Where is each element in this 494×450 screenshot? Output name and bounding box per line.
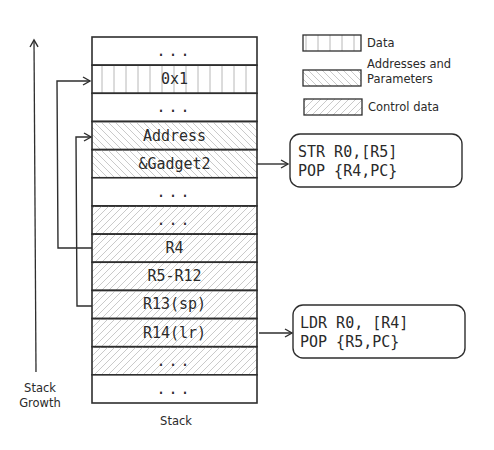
stack-diagram: Stack Growth ...0x1...Address&Gadget2...… [0, 0, 494, 450]
pointer-r13sp-to-address [76, 137, 92, 306]
gadget-str-line2: POP {R4,PC} [298, 162, 397, 180]
gadget-box-ldr: LDR R0, [R4] POP {R5,PC} [293, 305, 465, 358]
stack-row-label: Address [143, 127, 206, 145]
legend-label-addresses-line2: Parameters [367, 72, 433, 86]
stack-row-label: R5-R12 [147, 267, 201, 285]
gadget-ldr-line2: POP {R5,PC} [300, 333, 399, 351]
legend-swatch-data [303, 35, 361, 51]
stack-growth-label-line2: Growth [19, 396, 61, 410]
legend-swatch-control [304, 99, 362, 115]
stack-row-label: ... [156, 183, 192, 201]
legend-item-addresses: Addresses and Parameters [303, 57, 451, 86]
gadget-ldr-line1: LDR R0, [R4] [300, 314, 408, 332]
stack-row-label: R14(lr) [143, 324, 206, 342]
stack-row-label: ... [156, 352, 192, 370]
stack-row-label: 0x1 [161, 70, 188, 88]
pointer-r4-to-0x1 [57, 81, 92, 248]
legend-label-control: Control data [368, 100, 439, 114]
stack-row-label: ... [156, 211, 192, 229]
stack-row-label: R13(sp) [143, 295, 206, 313]
legend-item-control: Control data [304, 99, 439, 115]
stack-row-label: ... [156, 98, 192, 116]
stack: ...0x1...Address&Gadget2......R4R5-R12R1… [92, 37, 257, 403]
gadget-str-line1: STR R0,[R5] [298, 143, 397, 161]
legend: Data Addresses and Parameters Control da… [303, 35, 451, 115]
gadget-box-str: STR R0,[R5] POP {R4,PC} [290, 134, 462, 187]
legend-item-data: Data [303, 35, 394, 51]
stack-row-label: &Gadget2 [138, 155, 210, 173]
stack-caption: Stack [160, 414, 192, 428]
legend-swatch-addresses [303, 70, 361, 86]
stack-growth-label-line1: Stack [24, 381, 56, 395]
legend-label-addresses-line1: Addresses and [367, 57, 451, 71]
stack-growth-arrow [34, 40, 36, 372]
stack-row-label: ... [156, 42, 192, 60]
legend-label-data: Data [367, 36, 394, 50]
stack-row-label: ... [156, 380, 192, 398]
stack-row-label: R4 [165, 239, 183, 257]
